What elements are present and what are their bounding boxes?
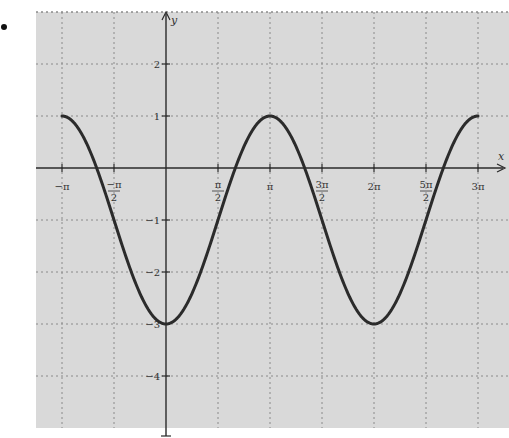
x-tick-label-denominator: 2 bbox=[215, 192, 221, 203]
x-tick-label: 3π bbox=[472, 181, 485, 192]
x-tick-label-numerator: −π bbox=[107, 179, 122, 190]
cosine-graph: yx−π−π2π2π3π22π5π23π21−1−2−3−4 bbox=[0, 0, 509, 438]
x-tick-label-denominator: 2 bbox=[319, 192, 325, 203]
y-axis-label: y bbox=[170, 14, 178, 27]
y-tick-label: 1 bbox=[154, 111, 160, 122]
y-tick-label: −4 bbox=[145, 371, 160, 382]
x-tick-label: 2π bbox=[368, 181, 381, 192]
x-tick-label-numerator: 5π bbox=[420, 179, 433, 190]
y-tick-label: −2 bbox=[145, 267, 160, 278]
x-tick-label: π bbox=[267, 181, 274, 192]
y-tick-label: 2 bbox=[154, 59, 160, 70]
x-tick-label-denominator: 2 bbox=[111, 192, 117, 203]
y-tick-label: −1 bbox=[145, 215, 160, 226]
x-tick-label-numerator: 3π bbox=[316, 179, 329, 190]
x-tick-label-numerator: π bbox=[215, 179, 222, 190]
x-tick-label: −π bbox=[55, 181, 70, 192]
x-tick-label-denominator: 2 bbox=[423, 192, 429, 203]
x-axis-label: x bbox=[498, 150, 505, 163]
